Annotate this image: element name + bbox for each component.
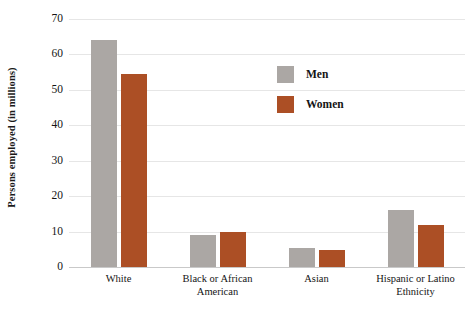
bar-men-2[interactable] (289, 248, 315, 267)
x-axis-category-label-line: Hispanic or Latino (366, 272, 465, 285)
bar-group (190, 19, 246, 267)
bar-women-3[interactable] (418, 225, 444, 268)
legend-item-women[interactable]: Women (277, 92, 397, 116)
legend: MenWomen (277, 62, 397, 122)
bars-layer (69, 19, 465, 267)
plot-area (69, 19, 465, 267)
bar-women-0[interactable] (121, 74, 147, 267)
bar-group (289, 19, 345, 267)
x-axis-category-label-line: American (168, 285, 267, 298)
y-axis-tick-label: 10 (3, 226, 63, 238)
legend-label: Women (306, 98, 344, 110)
bar-group (91, 19, 147, 267)
bar-chart: Persons employed (in millions) 706050403… (0, 0, 473, 310)
x-axis-category-label-line: Asian (267, 272, 366, 285)
x-axis-category-label: Black or AfricanAmerican (168, 272, 267, 298)
y-axis-tick-label: 30 (3, 155, 63, 167)
y-axis-tick-label: 40 (3, 120, 63, 132)
legend-item-men[interactable]: Men (277, 62, 397, 86)
bar-men-1[interactable] (190, 235, 216, 267)
y-axis-tick-label: 50 (3, 84, 63, 96)
x-axis-category-label-line: Ethnicity (366, 285, 465, 298)
bar-men-0[interactable] (91, 40, 117, 267)
x-axis-category-label-line: Black or African (168, 272, 267, 285)
x-axis-category-label-line: White (69, 272, 168, 285)
x-axis-category-label: Asian (267, 272, 366, 285)
y-axis-tick-label: 20 (3, 190, 63, 202)
axis-baseline (69, 267, 465, 268)
bar-group (388, 19, 444, 267)
x-axis-category-label: White (69, 272, 168, 285)
y-axis-tick-label: 70 (3, 13, 63, 25)
legend-label: Men (306, 68, 328, 80)
y-axis-tick-labels: 706050403020100 (0, 19, 63, 267)
x-axis-category-labels: WhiteBlack or AfricanAmericanAsianHispan… (69, 272, 465, 310)
bar-women-2[interactable] (319, 250, 345, 267)
y-axis-tick-label: 60 (3, 49, 63, 61)
legend-swatch-men (277, 66, 294, 83)
x-axis-category-label: Hispanic or LatinoEthnicity (366, 272, 465, 298)
bar-women-1[interactable] (220, 232, 246, 267)
y-axis-tick-label: 0 (3, 261, 63, 273)
bar-men-3[interactable] (388, 210, 414, 267)
legend-swatch-women (277, 96, 294, 113)
